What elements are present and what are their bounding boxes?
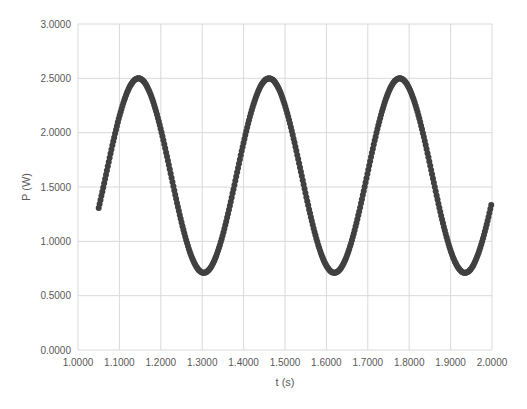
x-tick-label: 1.5000: [270, 357, 301, 368]
y-tick-label: 2.5000: [40, 73, 71, 84]
y-tick-label: 3.0000: [40, 19, 71, 30]
x-tick-label: 2.0000: [477, 357, 508, 368]
x-tick-label: 1.4000: [228, 357, 259, 368]
x-tick-label: 1.0000: [63, 357, 94, 368]
y-axis-ticks: 0.00000.50001.00001.50002.00002.50003.00…: [40, 19, 71, 356]
y-tick-label: 1.5000: [40, 182, 71, 193]
y-tick-label: 0.5000: [40, 290, 71, 301]
x-axis-ticks: 1.00001.10001.20001.30001.40001.50001.60…: [63, 357, 508, 368]
y-axis-title: P (W): [20, 173, 32, 201]
x-axis-title: t (s): [276, 376, 295, 388]
y-tick-label: 2.0000: [40, 127, 71, 138]
data-points: [96, 75, 495, 276]
x-tick-label: 1.8000: [394, 357, 425, 368]
x-tick-label: 1.9000: [435, 357, 466, 368]
x-tick-label: 1.3000: [187, 357, 218, 368]
gridlines: [78, 24, 492, 350]
x-tick-label: 1.7000: [353, 357, 384, 368]
scatter-chart: 0.00000.50001.00001.50002.00002.50003.00…: [0, 0, 527, 409]
x-tick-label: 1.1000: [104, 357, 135, 368]
x-tick-label: 1.6000: [311, 357, 342, 368]
y-tick-label: 0.0000: [40, 345, 71, 356]
data-point: [488, 202, 494, 208]
y-tick-label: 1.0000: [40, 236, 71, 247]
x-tick-label: 1.2000: [146, 357, 177, 368]
